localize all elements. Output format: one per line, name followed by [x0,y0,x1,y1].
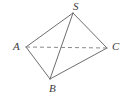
vertex-label-c: C [112,41,119,52]
vertex-label-b: B [49,83,56,94]
edge-A-C-hidden [26,47,107,48]
geometry-figure: S A C B [0,0,124,97]
edge-A-B [26,47,50,79]
vertex-label-s: S [73,1,79,12]
edge-B-C [50,48,107,79]
edge-S-A [26,13,73,47]
vertex-label-a: A [13,41,20,52]
edge-S-B [50,13,73,79]
edge-S-C [73,13,107,48]
